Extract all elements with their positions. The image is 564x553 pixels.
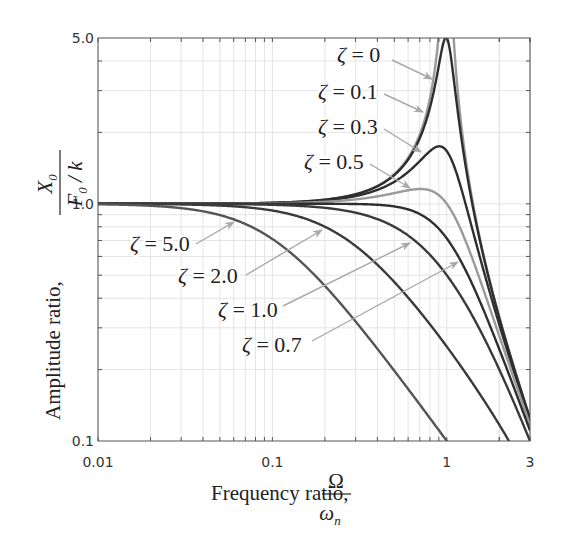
annotation-label: ζ = 0 (337, 42, 380, 67)
annotation-label: ζ = 0.3 (318, 114, 378, 139)
x-axis-title-numerator: Ω (328, 469, 344, 493)
curve-zeta-0-5 (98, 189, 530, 425)
y-tick-label: 5.0 (72, 30, 94, 46)
curve-zeta-0 (98, 0, 530, 418)
y-axis-title-numerator: X0 (33, 174, 60, 195)
x-axis-title: Frequency ratio, Ω ωn (211, 469, 351, 528)
x-tick-label: 0.01 (82, 454, 113, 470)
annotation-label: ζ = 2.0 (178, 263, 238, 288)
curve-zeta-0-3 (98, 146, 530, 420)
damping-annotations: ζ = 0ζ = 0ζ = 0.1ζ = 0.1ζ = 0.3ζ = 0.3ζ … (130, 42, 458, 357)
annotation-label: ζ = 0.1 (318, 79, 378, 104)
annotation-arrow (283, 243, 410, 306)
annotation-label: ζ = 0.7 (242, 332, 302, 357)
annotation-label: ζ = 1.0 (218, 297, 278, 322)
x-tick-label: 0.1 (261, 454, 283, 470)
y-axis-title-text: Amplitude ratio, (41, 281, 65, 420)
annotation-arrow (246, 230, 322, 275)
y-axis-title: Amplitude ratio, X0 F0 / k (33, 150, 90, 420)
annotation-arrow (392, 60, 432, 79)
curve-zeta-0-1 (98, 38, 530, 419)
x-tick-label: 1 (442, 454, 451, 470)
y-axis-title-denominator: F0 / k (63, 161, 90, 208)
x-tick-label: 3 (526, 454, 535, 470)
annotation-arrow (384, 94, 423, 112)
x-axis-title-denominator: ωn (319, 501, 340, 528)
frequency-response-chart: ζ = 0ζ = 0ζ = 0.1ζ = 0.1ζ = 0.3ζ = 0.3ζ … (0, 0, 564, 553)
annotation-label: ζ = 0.5 (304, 149, 364, 174)
y-tick-label: 0.1 (72, 433, 94, 449)
annotation-label: ζ = 5.0 (130, 231, 190, 256)
